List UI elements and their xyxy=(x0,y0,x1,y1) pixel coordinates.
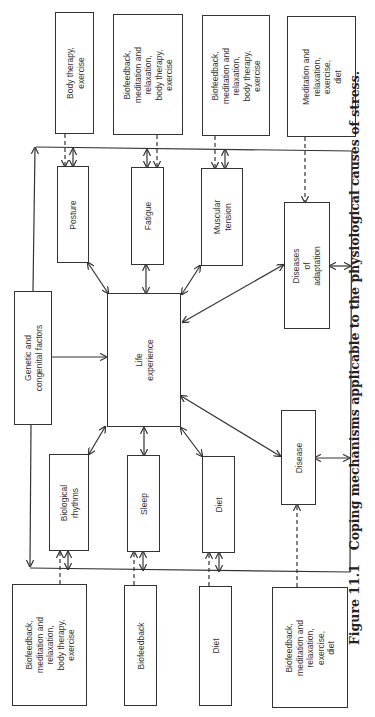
cause-box-diet: Diet xyxy=(202,456,235,553)
coping-box-diet: Diet xyxy=(199,586,232,706)
cause-box-posture: Posture xyxy=(57,166,89,263)
figure-caption-text: Coping mechanisms applicable to the phys… xyxy=(347,71,362,550)
cause-box-sleep: Sleep xyxy=(127,455,160,552)
figure-number: Figure 11.1 xyxy=(347,564,362,645)
cause-box-biological-rhythms: Biological rhythms xyxy=(49,454,89,551)
cause-box-muscular-tension: Muscular tension xyxy=(201,168,243,266)
genetic-factors-box: Genetic and congenital factors xyxy=(14,291,52,425)
coping-box-disease: Biofeedback, meditation and relaxation, … xyxy=(272,587,348,708)
coping-box-muscular-tension: Biofeedback, meditation and relaxation, … xyxy=(202,15,270,136)
cause-box-fatigue: Fatigue xyxy=(131,167,164,265)
coping-box-sleep: Biofeedback xyxy=(124,585,157,706)
figure-caption: Figure 11.1Coping mechanisms applicable … xyxy=(347,71,362,645)
life-experience-box: Life experience xyxy=(107,293,181,427)
coping-box-biological-rhythms: Biofeedback, meditation and relaxation, … xyxy=(12,584,87,706)
coping-box-posture: Body therapy, exercise xyxy=(55,12,94,134)
coping-box-fatigue: Biofeedback, meditation and relaxation, … xyxy=(113,14,183,135)
diseases-of-adaptation-box: Diseases of adaptation xyxy=(284,202,330,329)
disease-box: Disease xyxy=(281,410,316,505)
